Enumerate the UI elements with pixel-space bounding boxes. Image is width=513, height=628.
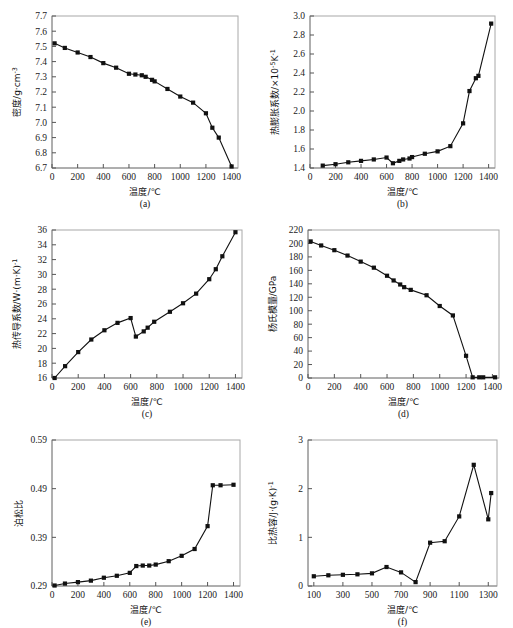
- data-point: [88, 55, 92, 59]
- plot-axes: [310, 16, 495, 168]
- y-tick-label: 140: [289, 279, 304, 289]
- x-tick-label: 300: [336, 590, 351, 600]
- x-tick-label: 500: [365, 590, 380, 600]
- data-point: [129, 316, 133, 320]
- data-point: [207, 277, 211, 281]
- panel-caption: (f): [398, 617, 408, 628]
- x-tick-label: 1400: [224, 590, 243, 600]
- x-tick-label: 1400: [226, 382, 245, 392]
- data-point: [101, 61, 105, 65]
- y-tick-label: 1: [298, 533, 303, 543]
- x-tick-label: 600: [379, 172, 394, 182]
- y-tick-label: 30: [38, 270, 48, 280]
- data-point: [141, 563, 145, 567]
- data-point: [217, 136, 221, 140]
- y-tick-label: 1.8: [293, 125, 305, 135]
- y-tick-label: 0.39: [30, 533, 47, 543]
- y-tick-label: 22: [38, 329, 48, 339]
- x-tick-label: 1400: [483, 382, 502, 392]
- y-tick-label: 7.1: [35, 103, 47, 113]
- x-tick-label: 0: [50, 382, 55, 392]
- data-point: [391, 161, 395, 165]
- x-tick-label: 0: [50, 172, 55, 182]
- data-point: [413, 580, 417, 584]
- data-point: [359, 260, 363, 264]
- data-point: [476, 74, 480, 78]
- x-tick-label: 400: [354, 382, 369, 392]
- data-point: [438, 304, 442, 308]
- data-point: [385, 274, 389, 278]
- y-axis-label: 热传导系数/W·(m·K)-1: [11, 259, 22, 350]
- data-point: [52, 41, 56, 45]
- x-tick-label: 800: [150, 382, 165, 392]
- data-point: [435, 149, 439, 153]
- data-point: [355, 572, 359, 576]
- data-point: [401, 157, 405, 161]
- data-point: [457, 514, 461, 518]
- data-point: [384, 565, 388, 569]
- plot-frame: [52, 440, 240, 586]
- data-point: [398, 282, 402, 286]
- data-point: [359, 159, 363, 163]
- y-axis-label: 热膨胀系数/×10-5K-1: [269, 49, 280, 135]
- y-axis-label: 泊松比: [13, 500, 24, 527]
- data-point: [63, 364, 67, 368]
- data-point: [384, 155, 388, 159]
- data-point: [53, 376, 57, 380]
- data-point: [312, 574, 316, 578]
- data-point: [89, 337, 93, 341]
- x-tick-label: 800: [405, 172, 420, 182]
- data-point: [142, 329, 146, 333]
- x-tick-label: 0: [306, 382, 311, 392]
- x-axis-label: 温度/℃: [129, 186, 160, 197]
- data-point: [486, 517, 490, 521]
- x-axis-label: 温度/℃: [387, 186, 418, 197]
- data-point: [233, 230, 237, 234]
- x-tick-label: 400: [354, 172, 369, 182]
- plot-axes: [308, 230, 499, 378]
- data-point: [181, 301, 185, 305]
- data-point: [194, 292, 198, 296]
- data-point: [180, 554, 184, 558]
- x-axis-label: 温度/℃: [387, 604, 418, 615]
- x-tick-label: 800: [147, 172, 162, 182]
- figure-sheet: 6.76.86.97.07.17.27.37.47.57.67.70200400…: [0, 0, 513, 628]
- x-axis-label: 温度/℃: [131, 396, 162, 407]
- data-point: [402, 285, 406, 289]
- y-tick-label: 3.0: [293, 11, 305, 21]
- x-tick-label: 800: [406, 382, 421, 392]
- data-point: [489, 491, 493, 495]
- data-point: [464, 354, 468, 358]
- data-point: [428, 541, 432, 545]
- plot-axes: [52, 230, 242, 378]
- data-point: [76, 350, 80, 354]
- y-tick-label: 6.9: [35, 133, 47, 143]
- y-tick-label: 7.5: [35, 42, 47, 52]
- y-tick-label: 2.2: [293, 87, 305, 97]
- y-tick-label: 80: [294, 320, 304, 330]
- data-point: [63, 46, 67, 50]
- y-tick-label: 0.59: [30, 435, 47, 445]
- x-tick-label: 100: [307, 590, 322, 600]
- x-tick-label: 800: [149, 590, 164, 600]
- x-tick-label: 1000: [172, 590, 191, 600]
- x-tick-label: 400: [97, 590, 112, 600]
- data-point: [370, 571, 374, 575]
- data-point: [152, 320, 156, 324]
- y-tick-label: 18: [38, 359, 48, 369]
- data-point: [214, 267, 218, 271]
- x-tick-label: 1300: [479, 590, 498, 600]
- data-point: [168, 310, 172, 314]
- x-tick-label: 600: [123, 382, 138, 392]
- x-tick-label: 1200: [196, 172, 215, 182]
- y-tick-label: 7.2: [35, 87, 47, 97]
- data-point: [102, 576, 106, 580]
- plot-frame: [52, 230, 242, 378]
- x-tick-label: 1200: [454, 172, 473, 182]
- plot-axes: [52, 440, 240, 586]
- y-tick-label: 6.7: [35, 163, 47, 173]
- plot-frame: [52, 16, 238, 168]
- x-tick-label: 0: [308, 172, 313, 182]
- x-tick-label: 1200: [200, 382, 219, 392]
- data-point: [332, 248, 336, 252]
